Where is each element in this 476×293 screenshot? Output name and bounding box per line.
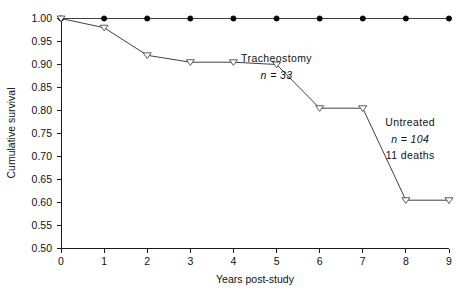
- y-tick-label: 0.70: [32, 150, 53, 162]
- x-axis-title: Years post-study: [216, 273, 295, 285]
- data-point: [274, 16, 279, 21]
- y-tick-label: 0.95: [32, 35, 53, 47]
- x-tick-label: 8: [403, 255, 409, 267]
- x-tick-label: 3: [187, 255, 193, 267]
- y-tick-label: 0.85: [32, 81, 53, 93]
- data-point: [145, 16, 150, 21]
- series-line-1: [61, 19, 449, 201]
- y-tick-label: 0.80: [32, 104, 53, 116]
- survival-chart-figure: 0.500.550.600.650.700.750.800.850.900.95…: [0, 0, 476, 293]
- y-tick-label: 1.00: [32, 12, 53, 24]
- x-tick-label: 4: [231, 255, 237, 267]
- x-axis-ticks: 0123456789: [58, 249, 452, 267]
- x-tick-label: 9: [446, 255, 452, 267]
- y-tick-label: 0.90: [32, 58, 53, 70]
- x-tick-label: 2: [144, 255, 150, 267]
- tracheostomy-label: Tracheostomy: [241, 52, 312, 64]
- y-tick-label: 0.50: [32, 242, 53, 254]
- x-tick-label: 5: [274, 255, 280, 267]
- series-tracheostomy: [58, 16, 451, 21]
- y-axis-title: Cumulative survival: [5, 87, 17, 178]
- x-tick-label: 0: [58, 255, 64, 267]
- data-point: [317, 16, 322, 21]
- tracheostomy-n: n = 33: [261, 69, 293, 81]
- y-tick-label: 0.65: [32, 173, 53, 185]
- data-point: [360, 16, 365, 21]
- data-point: [102, 16, 107, 21]
- data-point: [188, 16, 193, 21]
- x-tick-label: 6: [317, 255, 323, 267]
- chart-annotations-layer: Tracheostomyn = 33Untreatedn = 10411 dea…: [241, 52, 435, 161]
- series-untreated: [57, 16, 453, 203]
- y-axis-ticks: 0.500.550.600.650.700.750.800.850.900.95…: [32, 12, 61, 254]
- plot-area: 0.500.550.600.650.700.750.800.850.900.95…: [0, 0, 476, 293]
- x-tick-label: 1: [101, 255, 107, 267]
- y-tick-label: 0.60: [32, 196, 53, 208]
- untreated-label: Untreated: [385, 116, 435, 128]
- data-point: [403, 16, 408, 21]
- data-point: [231, 16, 236, 21]
- untreated-deaths: 11 deaths: [386, 149, 435, 161]
- y-tick-label: 0.75: [32, 127, 53, 139]
- data-point: [100, 25, 108, 31]
- x-tick-label: 7: [360, 255, 366, 267]
- data-point: [446, 16, 451, 21]
- untreated-n: n = 104: [391, 133, 429, 145]
- y-tick-label: 0.55: [32, 219, 53, 231]
- data-series-layer: [57, 16, 453, 204]
